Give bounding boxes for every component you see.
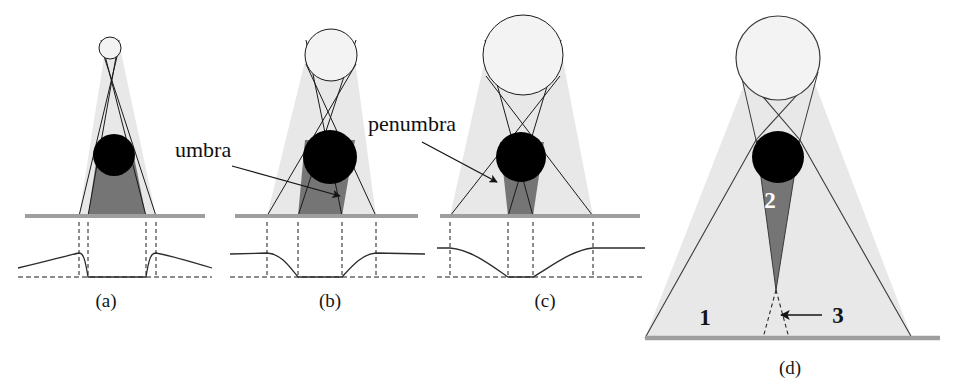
panel-a-light-source bbox=[99, 37, 121, 59]
panel-d-region-3-label: 3 bbox=[832, 303, 844, 328]
panel-d-region-2-label: 2 bbox=[764, 188, 776, 213]
panel-c-occluder bbox=[496, 132, 546, 182]
panel-c-intensity-curve bbox=[437, 248, 645, 277]
panel-d-region-1-label: 1 bbox=[699, 305, 711, 330]
callout-penumbra-label: penumbra bbox=[368, 111, 456, 136]
panel-b-light-source bbox=[305, 29, 357, 81]
figure-root: (a) (b) bbox=[0, 0, 967, 386]
panel-d: 1 2 3 (d) bbox=[645, 16, 940, 379]
panel-a-occluder bbox=[93, 134, 135, 176]
panel-a-caption: (a) bbox=[95, 290, 116, 312]
panel-d-caption: (d) bbox=[779, 357, 801, 379]
panel-b-guide-lines bbox=[267, 222, 376, 277]
panel-c-guide-lines bbox=[450, 222, 593, 277]
panel-c: (c) bbox=[437, 15, 645, 312]
panel-a-intensity-curve bbox=[18, 253, 212, 277]
panel-c-light-source bbox=[483, 15, 563, 95]
panel-c-caption: (c) bbox=[534, 290, 555, 312]
callout-umbra-label: umbra bbox=[175, 137, 231, 162]
panel-b-occluder bbox=[303, 130, 357, 184]
shadow-diagram-svg: (a) (b) bbox=[0, 0, 967, 386]
panel-d-occluder bbox=[752, 131, 804, 183]
panel-a-guide-lines bbox=[79, 222, 156, 277]
panel-b: (b) bbox=[230, 29, 425, 312]
panel-d-light-source bbox=[736, 16, 820, 100]
panel-b-caption: (b) bbox=[319, 290, 341, 312]
panel-a: (a) bbox=[18, 37, 212, 312]
panel-b-intensity-curve bbox=[230, 253, 425, 277]
